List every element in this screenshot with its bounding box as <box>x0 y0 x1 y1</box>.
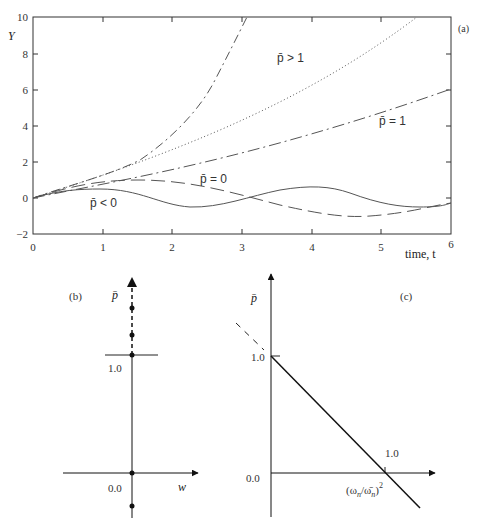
x-tick-6: 6 <box>448 238 454 250</box>
annot-p-eq-0: p̄ = 0 <box>200 172 227 186</box>
annot-p-gt-1: p̄ > 1 <box>277 51 304 65</box>
p-axis-label-b: p̄ <box>111 288 118 302</box>
y-tick-8: 8 <box>23 48 29 60</box>
panel-a: 10 8 6 4 2 0 −2 0 1 2 3 4 5 6 Y time, t … <box>8 11 469 261</box>
stability-line-extension <box>236 323 264 350</box>
x-tick-5: 5 <box>378 241 384 253</box>
tick-1-label-c: 1.0 <box>251 351 265 363</box>
y-axis-label: Y <box>8 29 16 43</box>
x-tick-3: 3 <box>239 241 245 253</box>
figure: 10 8 6 4 2 0 −2 0 1 2 3 4 5 6 Y time, t … <box>0 0 484 530</box>
y-tick-10: 10 <box>17 11 29 23</box>
curve-p-eq-1 <box>33 89 451 198</box>
curve-p-dotted <box>33 17 417 198</box>
w-axis-label: w <box>178 480 186 494</box>
x-tick-1: 1 <box>100 241 106 253</box>
origin-label-c: 0.0 <box>246 472 260 484</box>
x-tick-0: 0 <box>30 241 36 253</box>
origin-label-b: 0.0 <box>108 482 122 494</box>
y-tick-0: 0 <box>23 192 29 204</box>
x-axis-label: time, t <box>405 247 436 261</box>
panel-label-c: (c) <box>400 290 413 303</box>
x-tick-2: 2 <box>169 241 175 253</box>
x-axis-label-c: (ωn/ω̄n)2 <box>346 481 383 499</box>
x-tick-1-label-c: 1.0 <box>385 447 399 459</box>
p-axis-label-c: p̄ <box>250 291 257 305</box>
y-tick-neg2: −2 <box>16 228 28 240</box>
curve-p-gt-1 <box>33 17 247 198</box>
y-tick-6: 6 <box>23 84 29 96</box>
panel-label-b: (b) <box>69 290 82 303</box>
tick-1-label-b: 1.0 <box>108 362 122 374</box>
annot-p-eq-1: p̄ = 1 <box>379 114 406 128</box>
x-tick-4: 4 <box>309 241 315 253</box>
panel-b: (b) p̄ 1.0 0.0 w <box>63 278 198 518</box>
panel-label-a: (a) <box>458 23 469 35</box>
panel-c: p̄ (c) 1.0 0.0 1.0 (ωn/ω̄n)2 <box>236 274 435 517</box>
annot-p-lt-0: p̄ < 0 <box>90 196 117 210</box>
y-tick-2: 2 <box>23 156 29 168</box>
y-tick-4: 4 <box>23 120 29 132</box>
